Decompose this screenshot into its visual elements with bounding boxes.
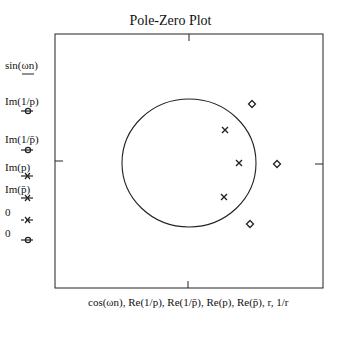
poles bbox=[221, 127, 242, 200]
zeros bbox=[247, 101, 281, 228]
legend-zero-1: 0 bbox=[5, 207, 11, 218]
legend-zero-2: 0 bbox=[5, 228, 11, 239]
pole-marker bbox=[221, 194, 227, 200]
unit-circle bbox=[122, 99, 256, 227]
x-axis-label: cos(ωn), Re(1/p), Re(1/p̄), Re(p), Re(p̄… bbox=[88, 296, 288, 308]
plot-frame bbox=[55, 34, 323, 288]
legend-im-pbar: Im(p̄) bbox=[5, 184, 30, 195]
zero-marker bbox=[274, 161, 281, 168]
zero-marker bbox=[247, 221, 254, 228]
legend-sin: sin(ωn) bbox=[5, 60, 38, 71]
legend-im-inv-p: Im(1/p) bbox=[5, 96, 39, 107]
zero-marker bbox=[249, 101, 256, 108]
legend-im-p: Im(p) bbox=[5, 162, 30, 173]
pole-marker bbox=[222, 127, 228, 133]
pole-marker bbox=[236, 160, 242, 166]
legend-im-inv-pbar: Im(1/p̄) bbox=[5, 134, 39, 145]
plot-area bbox=[0, 0, 341, 338]
